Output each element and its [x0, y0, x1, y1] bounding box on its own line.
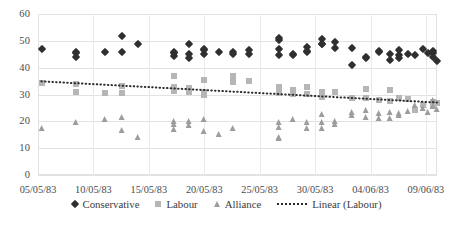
gridline-y-0: [38, 175, 437, 176]
data-point-alliance: [429, 97, 435, 103]
triangle-icon: [214, 201, 220, 207]
data-point-labour: [363, 86, 369, 92]
square-icon: [155, 201, 161, 207]
x-axis-tick-0: 05/05/83: [8, 184, 68, 195]
legend-item-alliance: Alliance: [214, 198, 262, 210]
data-point-alliance: [363, 107, 369, 113]
data-point-labour: [304, 91, 310, 97]
y-axis-tick-40: 40: [6, 63, 30, 73]
data-point-labour: [246, 78, 252, 84]
legend-label-linear-labour: Linear (Labour): [312, 198, 381, 210]
data-point-labour: [201, 77, 207, 83]
x-axis-tick-7: 09/06/83: [396, 184, 453, 195]
data-point-alliance: [396, 112, 402, 118]
x-axis-tick-5: 30/05/83: [285, 184, 345, 195]
y-axis-tick-20: 20: [6, 116, 30, 126]
data-point-labour: [171, 88, 177, 94]
plot-area: [38, 14, 437, 175]
data-point-alliance: [348, 112, 354, 118]
y-axis-tick-10: 10: [6, 143, 30, 153]
data-point-alliance: [201, 128, 207, 134]
data-point-labour: [73, 89, 79, 95]
data-point-labour: [201, 92, 207, 98]
gridline-y-30: [38, 95, 437, 96]
data-point-labour: [276, 90, 282, 96]
gridline-y-40: [38, 68, 437, 69]
data-point-labour: [39, 80, 45, 86]
y-axis-tick-50: 50: [6, 36, 30, 46]
gridline-x-4: [260, 14, 261, 175]
data-point-alliance: [376, 115, 382, 121]
data-point-alliance: [275, 124, 281, 130]
data-point-alliance: [119, 114, 125, 120]
legend-item-labour: Labour: [155, 198, 197, 210]
gridline-y-60: [38, 14, 437, 15]
data-point-alliance: [318, 111, 324, 117]
gridline-x-1: [93, 14, 94, 175]
y-axis-tick-60: 60: [6, 9, 30, 19]
data-point-labour: [102, 90, 108, 96]
data-point-labour: [230, 79, 236, 85]
data-point-labour: [332, 89, 338, 95]
data-point-labour: [319, 94, 325, 100]
data-point-alliance: [425, 109, 431, 115]
data-point-alliance: [119, 127, 125, 133]
y-axis-tick-30: 30: [6, 90, 30, 100]
gridline-x-7: [426, 14, 427, 175]
data-point-labour: [119, 90, 125, 96]
data-point-alliance: [185, 122, 191, 128]
x-axis-tick-6: 04/06/83: [341, 184, 401, 195]
data-point-alliance: [318, 125, 324, 131]
chart-legend: Conservative Labour Alliance Linear (Lab…: [0, 198, 453, 210]
data-point-alliance: [363, 114, 369, 120]
data-point-alliance: [387, 115, 393, 121]
data-point-alliance: [304, 125, 310, 131]
data-point-labour: [304, 84, 310, 90]
data-point-labour: [363, 95, 369, 101]
data-point-alliance: [411, 102, 417, 108]
data-point-labour: [290, 91, 296, 97]
data-point-alliance: [171, 126, 177, 132]
gridline-x-5: [315, 14, 316, 175]
data-point-alliance: [201, 116, 207, 122]
data-point-alliance: [275, 135, 281, 141]
gridline-x-6: [371, 14, 372, 175]
y-axis-tick-0: 0: [6, 170, 30, 180]
legend-label-alliance: Alliance: [225, 198, 262, 210]
data-point-labour: [230, 73, 236, 79]
data-point-labour: [171, 73, 177, 79]
legend-label-conservative: Conservative: [83, 198, 140, 210]
data-point-labour: [73, 81, 79, 87]
data-point-labour: [119, 83, 125, 89]
gridline-x-2: [149, 14, 150, 175]
legend-label-labour: Labour: [166, 198, 197, 210]
data-point-alliance: [72, 119, 78, 125]
data-point-labour: [387, 98, 393, 104]
data-point-labour: [186, 89, 192, 95]
gridline-y-10: [38, 148, 437, 149]
data-point-alliance: [332, 121, 338, 127]
data-point-labour: [349, 95, 355, 101]
chart-container: 0102030405060 05/05/8310/05/8315/05/8320…: [0, 0, 453, 229]
gridline-y-20: [38, 121, 437, 122]
diamond-icon: [70, 200, 78, 208]
legend-item-linear-labour: Linear (Labour): [277, 198, 381, 210]
data-point-alliance: [134, 134, 140, 140]
data-point-labour: [376, 97, 382, 103]
data-point-alliance: [230, 125, 236, 131]
data-point-labour: [387, 87, 393, 93]
x-axis-tick-4: 25/05/83: [230, 184, 290, 195]
data-point-alliance: [215, 131, 221, 137]
data-point-labour: [396, 95, 402, 101]
dotted-line-icon: [277, 203, 307, 205]
gridline-y-50: [38, 41, 437, 42]
data-point-alliance: [101, 116, 107, 122]
data-point-labour: [405, 96, 411, 102]
data-point-alliance: [405, 108, 411, 114]
x-axis-tick-1: 10/05/83: [63, 184, 123, 195]
data-point-alliance: [434, 106, 440, 112]
legend-item-conservative: Conservative: [72, 198, 140, 210]
x-axis-tick-2: 15/05/83: [119, 184, 179, 195]
x-axis-tick-3: 20/05/83: [174, 184, 234, 195]
data-point-alliance: [290, 116, 296, 122]
